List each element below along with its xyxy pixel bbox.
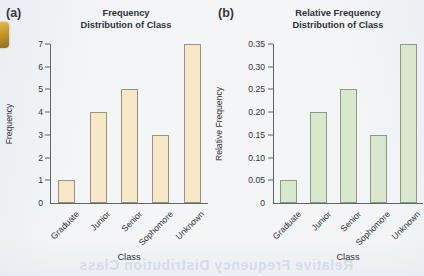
a-y-tick-mark xyxy=(45,66,50,67)
panel-a-y-axis-label: Frequency xyxy=(2,44,16,204)
a-y-tick-mark xyxy=(45,44,50,45)
x-tick-label-text: Unknown xyxy=(174,209,206,241)
b-y-tick-mark xyxy=(268,134,273,135)
panel-a-y-tick-labels: 01234567 xyxy=(24,44,48,209)
bar-senior xyxy=(340,89,357,203)
a-y-tick-label: 3 xyxy=(38,130,43,140)
panel-b-title-line1: Relative Frequency xyxy=(295,8,380,18)
panel-b-axis-area: 00.050.100.150.200.250.300.35 GraduateJu… xyxy=(242,44,420,209)
b-y-tick-label: 0.05 xyxy=(248,175,265,185)
a-y-tick-mark xyxy=(45,180,50,181)
panel-b-relative-frequency-chart: (b) Relative Frequency Distribution of C… xyxy=(212,0,424,276)
a-y-tick-mark xyxy=(45,134,50,135)
panel-b-x-axis-label: Class xyxy=(273,252,423,262)
x-tick-label-text: Junior xyxy=(309,209,333,233)
panel-b-title-line2: Distribution of Class xyxy=(256,19,420,31)
x-tick-label-text: Senior xyxy=(338,209,363,234)
panel-b-letter: (b) xyxy=(218,6,234,20)
x-tick-label-text: Senior xyxy=(119,209,144,234)
panel-a-letter: (a) xyxy=(6,6,21,20)
b-y-tick-mark xyxy=(268,157,273,158)
b-y-tick-label: 0.30 xyxy=(248,62,265,72)
panel-a-bars xyxy=(51,44,208,203)
panel-a-x-tick-labels: GraduateJuniorSeniorSophomoreUnknown xyxy=(51,205,208,251)
b-y-tick-mark xyxy=(268,44,273,45)
b-y-tick-mark xyxy=(268,66,273,67)
panel-b-x-tick-labels: GraduateJuniorSeniorSophomoreUnknown xyxy=(274,205,423,251)
panel-b-title: Relative Frequency Distribution of Class xyxy=(256,7,420,31)
panel-b-y-axis-label: Relative Frequency xyxy=(212,40,226,208)
a-y-tick-mark xyxy=(45,112,50,113)
b-y-tick-mark xyxy=(268,112,273,113)
panel-b-bars xyxy=(274,44,423,203)
panel-b-plot: Relative Frequency 00.050.100.150.200.25… xyxy=(212,44,424,276)
x-tick-label-text: Unknown xyxy=(390,209,422,241)
b-y-tick-label: 0.35 xyxy=(248,39,265,49)
panel-a-plot: Frequency 01234567 GraduateJuniorSeniorS… xyxy=(0,44,212,276)
a-y-tick-label: 2 xyxy=(38,153,43,163)
a-y-tick-label: 1 xyxy=(38,175,43,185)
a-y-tick-label: 7 xyxy=(38,39,43,49)
panel-a-title: Frequency Distribution of Class xyxy=(44,7,208,31)
panel-a-axis-area: 01234567 GraduateJuniorSeniorSophomoreUn… xyxy=(24,44,208,209)
b-y-tick-label: 0.15 xyxy=(248,130,265,140)
figure-panels: (a) Frequency Distribution of Class Freq… xyxy=(0,0,424,276)
panel-a-frequency-chart: (a) Frequency Distribution of Class Freq… xyxy=(0,0,212,276)
x-tick-label-text: Junior xyxy=(89,209,113,233)
b-y-tick-mark xyxy=(268,180,273,181)
x-tick-label-text: Graduate xyxy=(271,209,303,241)
b-y-tick-label: 0.10 xyxy=(248,153,265,163)
b-y-tick-label: 0.20 xyxy=(248,107,265,117)
a-y-tick-label: 0 xyxy=(38,198,43,208)
b-y-tick-mark xyxy=(268,89,273,90)
b-y-tick-label: 0 xyxy=(260,198,265,208)
bar-graduate xyxy=(280,180,297,203)
a-y-tick-label: 5 xyxy=(38,84,43,94)
a-y-tick-mark xyxy=(45,89,50,90)
a-y-tick-label: 4 xyxy=(38,107,43,117)
bar-graduate xyxy=(58,180,75,203)
a-y-tick-mark xyxy=(45,157,50,158)
x-tick-label-text: Graduate xyxy=(48,209,80,241)
a-y-tick-label: 6 xyxy=(38,62,43,72)
panel-b-y-tick-labels: 00.050.100.150.200.250.300.35 xyxy=(240,44,270,209)
b-y-tick-label: 0.25 xyxy=(248,84,265,94)
panel-a-x-axis-label: Class xyxy=(50,252,208,262)
panel-a-title-line1: Frequency xyxy=(102,8,149,18)
panel-a-title-line2: Distribution of Class xyxy=(44,19,208,31)
bar-senior xyxy=(121,89,138,203)
